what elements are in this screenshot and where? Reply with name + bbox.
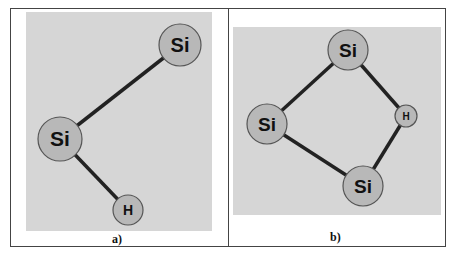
svg-text:Si: Si [354,176,372,197]
panel-b-caption: b) [330,230,341,245]
silicon-atom: Si [159,24,201,66]
svg-text:Si: Si [258,114,276,135]
silicon-atom: Si [38,117,82,161]
silicon-atom: Si [328,30,368,70]
svg-text:Si: Si [171,34,190,56]
svg-text:H: H [402,111,409,122]
bond [60,45,180,139]
silicon-atom: Si [247,104,287,144]
hydrogen-atom: H [395,105,417,127]
svg-text:Si: Si [50,127,70,150]
panel-a-caption: a) [112,232,122,247]
molecule-diagram: SiSiHSiSiHSi [0,0,451,258]
silicon-atom: Si [343,166,383,206]
hydrogen-atom: H [113,195,143,225]
svg-text:Si: Si [339,40,357,61]
svg-text:H: H [123,202,133,218]
